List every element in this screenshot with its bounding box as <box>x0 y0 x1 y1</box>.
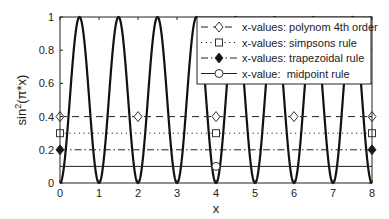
x-tick-label: 5 <box>252 187 258 199</box>
y-tick-label: 0 <box>48 177 54 189</box>
x-tick-label: 8 <box>369 187 375 199</box>
x-tick-label: 6 <box>291 187 297 199</box>
x-tick-label: 2 <box>135 187 141 199</box>
y-tick-label: 1 <box>48 11 54 23</box>
y-tick-label: 0.4 <box>39 111 54 123</box>
x-tick-label: 0 <box>57 187 63 199</box>
y-label-rest: (π*x) <box>14 75 29 104</box>
legend-label: x-values: trapezoidal rule <box>242 52 364 64</box>
y-tick-label: 0.8 <box>39 44 54 56</box>
y-tick-label: 0.6 <box>39 77 54 89</box>
chart: 01234567800.20.40.60.81 x sin2(π*x) x-va… <box>0 0 389 219</box>
legend-label: x-values: simpsons rule <box>242 37 357 49</box>
series-0-marker <box>290 112 298 122</box>
y-tick-label: 0.2 <box>39 144 54 156</box>
series-0-marker <box>134 112 142 122</box>
x-tick-label: 3 <box>174 187 180 199</box>
series-3-marker <box>212 162 220 170</box>
x-tick-label: 1 <box>96 187 102 199</box>
legend-marker <box>215 70 223 78</box>
x-axis-label: x <box>213 201 220 216</box>
legend-label: x-values: polynom 4th order <box>242 21 378 33</box>
legend: x-values: polynom 4th orderx-values: sim… <box>197 17 378 84</box>
x-tick-label: 4 <box>213 187 219 199</box>
legend-label: x-value: midpoint rule <box>242 68 350 80</box>
y-label-base: sin <box>14 109 29 126</box>
y-axis-label: sin2(π*x) <box>13 75 29 126</box>
legend-marker <box>216 39 223 46</box>
x-tick-label: 7 <box>330 187 336 199</box>
series-1-marker <box>213 130 220 137</box>
series-0-marker <box>212 112 220 122</box>
